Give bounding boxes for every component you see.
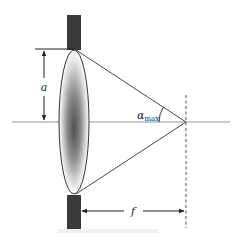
lower-aperture-stop (67, 195, 81, 229)
marginal-ray-lower (76, 122, 186, 194)
lens (59, 50, 89, 194)
marginal-ray-upper (76, 50, 186, 122)
max-angle-label: αmax (137, 109, 159, 123)
faint-caption-strip (58, 229, 158, 233)
radius-label: a (41, 81, 48, 94)
upper-aperture-stop (67, 15, 81, 50)
angle-arc (159, 107, 163, 122)
lens-focus-diagram: a αmax f (0, 0, 242, 237)
focal-length-label: f (130, 205, 137, 218)
